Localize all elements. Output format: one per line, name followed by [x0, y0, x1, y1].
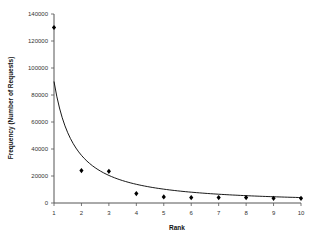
y-tick-label: 100000 — [28, 65, 49, 71]
x-tick-label: 7 — [217, 210, 221, 216]
diamond-marker — [162, 194, 166, 199]
diamond-marker — [79, 168, 83, 173]
diamond-marker — [299, 196, 303, 201]
y-tick-label: 0 — [45, 200, 49, 206]
diamond-marker — [217, 195, 221, 200]
y-tick-label: 140000 — [28, 11, 49, 17]
x-axis-ticks: 12345678910 — [52, 203, 305, 216]
diamond-marker — [189, 195, 193, 200]
x-tick-label: 2 — [80, 210, 84, 216]
x-tick-label: 3 — [107, 210, 111, 216]
x-axis-title: Rank — [169, 224, 185, 231]
x-tick-label: 10 — [298, 210, 305, 216]
fitted-curve — [54, 82, 301, 198]
zipf-chart: 020000400006000080000100000120000140000 … — [0, 0, 315, 242]
diamond-marker — [107, 169, 111, 174]
x-tick-label: 8 — [244, 210, 248, 216]
x-tick-label: 6 — [190, 210, 194, 216]
diamond-marker — [52, 25, 56, 30]
diamond-marker — [134, 191, 138, 196]
y-axis-title: Frequency (Number of Requests) — [7, 57, 15, 160]
y-tick-label: 20000 — [31, 173, 48, 179]
x-tick-label: 1 — [52, 210, 56, 216]
x-tick-label: 4 — [135, 210, 139, 216]
y-tick-label: 40000 — [31, 146, 48, 152]
data-markers — [52, 25, 303, 201]
x-tick-label: 5 — [162, 210, 166, 216]
y-tick-label: 120000 — [28, 38, 49, 44]
y-tick-label: 80000 — [31, 92, 48, 98]
y-tick-label: 60000 — [31, 119, 48, 125]
x-tick-label: 9 — [272, 210, 276, 216]
y-axis-ticks: 020000400006000080000100000120000140000 — [28, 11, 54, 206]
